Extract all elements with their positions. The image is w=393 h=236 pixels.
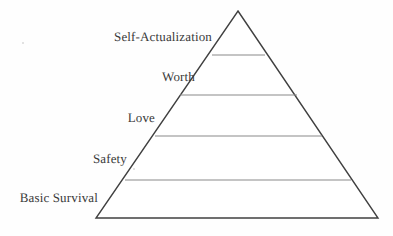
pyramid-figure: Self-Actualization Worth Love Safety Bas… xyxy=(0,0,393,236)
tier-label-worth: Worth xyxy=(162,70,195,83)
tier-label-self-actualization: Self-Actualization xyxy=(114,30,212,43)
tier-label-love: Love xyxy=(128,111,155,124)
tier-label-safety: Safety xyxy=(93,152,127,165)
scan-speck xyxy=(22,42,24,44)
scan-speck xyxy=(133,168,135,170)
tier-label-basic-survival: Basic Survival xyxy=(20,191,98,204)
